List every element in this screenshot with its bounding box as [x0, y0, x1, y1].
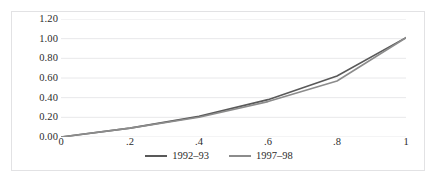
chart-frame: 1.20 1.00 0.80 0.60 0.40 0.20 0.00 0 .2 … — [11, 11, 425, 171]
chart-series-lines — [61, 38, 406, 137]
legend-label: 1997–98 — [256, 150, 293, 162]
x-axis-tick-label: 0 — [46, 136, 76, 148]
y-axis-tick-labels: 1.20 1.00 0.80 0.60 0.40 0.20 0.00 — [18, 12, 58, 172]
legend-line-swatch — [229, 155, 251, 157]
y-axis-tick-label: 0.60 — [24, 73, 58, 83]
x-axis-tick-label: 1 — [391, 136, 421, 148]
chart-gridlines — [61, 19, 406, 137]
y-axis-tick-label: 0.80 — [24, 53, 58, 63]
legend-item-series-1[interactable]: 1992–93 — [145, 150, 209, 162]
legend-item-series-2[interactable]: 1997–98 — [229, 150, 293, 162]
y-axis-tick-label: 1.20 — [24, 14, 58, 24]
series-line-1 — [61, 38, 406, 137]
y-axis-tick-label: 0.20 — [24, 112, 58, 122]
x-axis-tick-label: .4 — [184, 136, 214, 148]
x-axis-tick-label: .8 — [322, 136, 352, 148]
y-axis-tick-label: 1.00 — [24, 34, 58, 44]
legend-label: 1992–93 — [172, 150, 209, 162]
y-axis-tick-label: 0.40 — [24, 93, 58, 103]
chart-legend: 1992–93 1997–98 — [12, 150, 426, 162]
x-axis-tick-label: .2 — [115, 136, 145, 148]
legend-line-swatch — [145, 155, 167, 157]
chart-plot-area: 1.20 1.00 0.80 0.60 0.40 0.20 0.00 0 .2 … — [12, 12, 426, 172]
series-line-2 — [61, 38, 406, 137]
x-axis-tick-label: .6 — [253, 136, 283, 148]
chart-canvas — [61, 19, 406, 137]
